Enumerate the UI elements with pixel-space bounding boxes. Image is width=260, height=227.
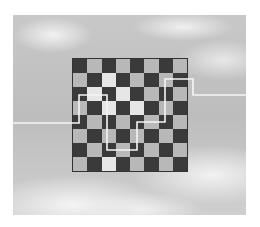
path-line — [0, 0, 260, 227]
